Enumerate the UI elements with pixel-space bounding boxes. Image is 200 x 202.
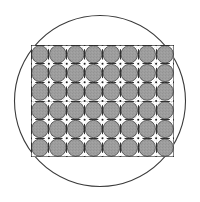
lattice-node-dot [102, 63, 104, 65]
lattice-node-dot [102, 137, 104, 139]
lattice-node-dot [66, 63, 68, 65]
lattice-node-dot [155, 63, 157, 65]
lattice-node-dot [48, 81, 50, 83]
lattice-node-dot [119, 119, 121, 121]
lattice-node-dot [66, 100, 68, 102]
lattice-node-dot [119, 63, 121, 65]
lattice-node-dot [84, 119, 86, 121]
lattice-node-dot [137, 119, 139, 121]
lattice-node-dot [102, 119, 104, 121]
lattice-node-dot [119, 81, 121, 83]
tiled-disc-grid-icon [27, 41, 178, 161]
lattice-node-dot [66, 119, 68, 121]
lattice-node-dot [48, 137, 50, 139]
cross-arm-horizontal [27, 82, 35, 84]
lattice-node-dot [66, 137, 68, 139]
lattice-node-dot [119, 137, 121, 139]
lattice-node-dot [48, 119, 50, 121]
lattice-node-dot [137, 100, 139, 102]
lattice-node-dot [48, 63, 50, 65]
lattice-node-dot [155, 81, 157, 83]
packing-diagram-svg [0, 0, 200, 202]
figure-container [0, 0, 200, 202]
cross-arm-horizontal [27, 119, 35, 121]
lattice-node-dot [102, 100, 104, 102]
lattice-node-dot [155, 119, 157, 121]
lattice-node-dot [84, 63, 86, 65]
lattice-node-dot [137, 63, 139, 65]
lattice-node-dot [137, 137, 139, 139]
cross-arm-horizontal [27, 138, 35, 140]
lattice-node-dot [155, 137, 157, 139]
lattice-node-dot [119, 100, 121, 102]
cross-arm-horizontal [27, 100, 35, 102]
lattice-node-dot [84, 137, 86, 139]
lattice-node-dot [84, 81, 86, 83]
lattice-node-dot [155, 100, 157, 102]
cross-arm-horizontal [27, 63, 35, 65]
lattice-node-dot [102, 81, 104, 83]
lattice-node-dot [66, 81, 68, 83]
lattice-node-dot [48, 100, 50, 102]
lattice-node-dot [137, 81, 139, 83]
lattice-node-dot [84, 100, 86, 102]
